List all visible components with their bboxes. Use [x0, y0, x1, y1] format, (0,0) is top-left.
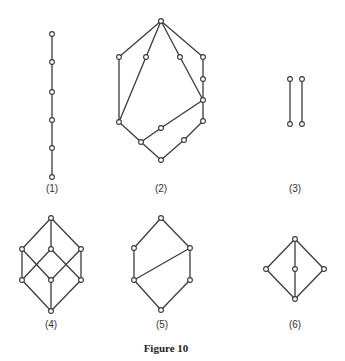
node: [144, 55, 149, 60]
node: [79, 247, 84, 252]
node: [188, 246, 193, 251]
edge: [161, 21, 180, 57]
node: [49, 247, 54, 252]
node: [322, 267, 327, 272]
node: [159, 19, 164, 24]
edge: [161, 280, 190, 310]
node: [188, 278, 193, 283]
node: [159, 308, 164, 313]
figure-caption: Figure 10: [144, 342, 189, 354]
diagram-label: (4): [45, 319, 57, 330]
diagram-label: (2): [155, 183, 167, 194]
edge: [146, 21, 161, 57]
node: [288, 122, 293, 127]
node: [201, 77, 206, 82]
hasse-diagram-2: (2): [117, 19, 206, 194]
hasse-diagram-6: (6): [264, 237, 327, 330]
edge: [134, 218, 161, 248]
edge: [134, 280, 161, 310]
figure-canvas: (1)(2)(3)(4)(5)(6) Figure 10: [0, 0, 345, 361]
node: [50, 175, 55, 180]
edge: [51, 218, 81, 249]
edge: [141, 142, 161, 160]
node: [182, 138, 187, 143]
node: [159, 158, 164, 163]
edge: [22, 218, 51, 249]
node: [201, 119, 206, 124]
node: [49, 278, 54, 283]
node: [132, 278, 137, 283]
node: [300, 122, 305, 127]
hasse-diagram-3: (3): [288, 77, 305, 194]
node: [50, 118, 55, 123]
node: [49, 216, 54, 221]
node: [264, 267, 269, 272]
edge: [180, 57, 203, 100]
edge: [119, 21, 161, 57]
edge: [266, 269, 295, 299]
edge: [161, 140, 184, 160]
diagram-label: (3): [289, 183, 301, 194]
edge: [161, 218, 190, 248]
node: [79, 278, 84, 283]
node: [117, 55, 122, 60]
node: [20, 247, 25, 252]
diagram-label: (5): [156, 319, 168, 330]
node: [159, 126, 164, 131]
node: [50, 146, 55, 151]
edge: [161, 100, 203, 128]
edge: [266, 239, 295, 269]
node: [117, 120, 122, 125]
node: [20, 278, 25, 283]
edge: [295, 269, 324, 299]
node: [159, 216, 164, 221]
node: [201, 98, 206, 103]
node: [293, 267, 298, 272]
diagram-label: (6): [289, 319, 301, 330]
edge: [141, 128, 161, 142]
node: [139, 140, 144, 145]
edge: [134, 248, 190, 280]
diagram-label: (1): [46, 183, 58, 194]
node: [50, 32, 55, 37]
edge: [184, 121, 203, 140]
node: [201, 55, 206, 60]
node: [293, 297, 298, 302]
hasse-diagram-4: (4): [20, 216, 84, 330]
node: [293, 237, 298, 242]
hasse-diagram-5: (5): [132, 216, 193, 330]
node: [300, 77, 305, 82]
edge: [119, 57, 146, 122]
node: [132, 246, 137, 251]
edge: [295, 239, 324, 269]
hasse-diagram-1: (1): [46, 32, 58, 194]
edge: [22, 280, 51, 311]
edge: [119, 122, 141, 142]
edge: [161, 21, 203, 57]
node: [50, 90, 55, 95]
node: [49, 309, 54, 314]
node: [50, 60, 55, 65]
diagram-group: (1)(2)(3)(4)(5)(6): [20, 19, 327, 330]
edge: [51, 280, 81, 311]
node: [178, 55, 183, 60]
node: [288, 77, 293, 82]
